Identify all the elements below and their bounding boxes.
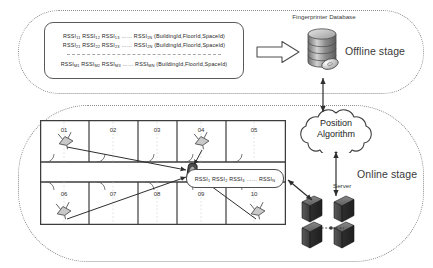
fingerprint-row-m: RSSIM1 RSSIM2 RSSIM3 …… RSSIMN (Building… <box>45 61 243 67</box>
database-icon <box>304 24 342 74</box>
room-label-08: 08 <box>154 191 161 197</box>
fingerprint-row-2: RSSI21 RSSI22 RSSI23 …… RSSI2N (Building… <box>45 42 243 48</box>
online-rssi-bubble: RSSI1 RSSI2 RSSI3 …… RSSIN <box>186 169 284 188</box>
room-label-04: 04 <box>198 127 205 133</box>
room-label-02: 02 <box>110 127 117 133</box>
server-label: Server <box>333 182 351 189</box>
online-rssi-bubble-text: RSSI1 RSSI2 RSSI3 …… RSSIN <box>187 176 283 182</box>
offline-stage-label: Offline stage <box>345 45 405 57</box>
room-label-05: 05 <box>251 127 258 133</box>
room-label-07: 07 <box>110 191 117 197</box>
position-algorithm-text: Position Algorithm <box>294 118 378 140</box>
server-cluster-icon <box>300 194 362 250</box>
diagram-canvas: Offline stage RSSI11 RSSI12 RSSI13 …… RS… <box>0 0 433 268</box>
cloud-line-2: Algorithm <box>294 129 378 140</box>
fingerprint-database-label: Fingerprinter Database <box>281 13 367 20</box>
room-label-01: 01 <box>61 127 68 133</box>
online-stage-label: Online stage <box>357 168 417 180</box>
room-label-03: 03 <box>154 127 161 133</box>
fingerprint-row-1: RSSI11 RSSI12 RSSI13 …… RSSI1N (Building… <box>45 33 243 39</box>
fingerprint-table-box: RSSI11 RSSI12 RSSI13 …… RSSI1N (Building… <box>44 22 244 79</box>
room-label-06: 06 <box>61 191 68 197</box>
offline-to-database-arrow-icon <box>256 40 300 64</box>
fingerprint-row-divider <box>67 54 221 55</box>
room-label-09: 09 <box>198 191 205 197</box>
room-label-10: 10 <box>251 191 258 197</box>
cloud-line-1: Position <box>294 118 378 129</box>
